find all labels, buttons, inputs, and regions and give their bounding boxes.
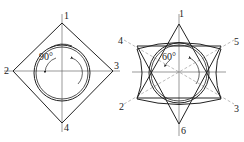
vertex-label-2: 2 [4,65,9,76]
vertex-label-3: 3 [114,60,119,71]
square-outline [13,23,113,123]
left-figure: 90° 1 2 3 4 [4,10,120,133]
vertex-label-1: 1 [179,8,184,19]
vertex-label-1: 1 [64,10,69,21]
vertex-label-3: 3 [234,103,239,114]
vertex-label-4: 4 [64,122,69,133]
vertex-label-2: 2 [119,101,124,112]
right-figure: 60° 1 2 3 4 5 6 [118,8,239,136]
rotation-arrow-right [190,58,199,84]
vertex-label-6: 6 [181,125,186,136]
vertex-label-4: 4 [118,35,123,46]
diagram-canvas: 90° 1 2 3 4 60° 1 2 3 4 5 6 [0,0,244,142]
angle-label: 90° [39,51,53,62]
vertex-label-5: 5 [234,36,239,47]
angle-label: 60° [162,51,176,62]
